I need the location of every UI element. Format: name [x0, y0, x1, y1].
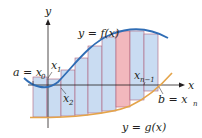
- area-between-curves-diagram: y x y = f(x) y = g(x) a = x 0 x 1 x 2 x …: [0, 0, 202, 138]
- svg-text:2: 2: [68, 99, 74, 107]
- strip-rectangle: [130, 31, 144, 100]
- strip-rectangle: [88, 46, 102, 113]
- x1-label: x 1: [51, 59, 61, 74]
- svg-text:1: 1: [57, 66, 61, 74]
- x1-pointer: [48, 72, 52, 78]
- b-label: b = x n: [158, 93, 198, 108]
- strip-rectangle: [102, 37, 116, 111]
- svg-text:a = x: a = x: [13, 66, 43, 79]
- svg-text:b = x: b = x: [158, 93, 188, 106]
- strip-rectangle: [33, 77, 47, 117]
- svg-text:n: n: [193, 100, 198, 108]
- highlighted-strip: [116, 31, 130, 107]
- g-curve-label: y = g(x): [121, 121, 166, 134]
- x-axis-arrow-icon: [179, 83, 185, 88]
- y-axis-arrow-icon: [46, 19, 51, 25]
- svg-text:n−1: n−1: [140, 76, 155, 84]
- y-axis-label: y: [44, 5, 52, 18]
- x-axis-label: x: [188, 79, 195, 92]
- a-label: a = x 0: [13, 66, 46, 81]
- svg-text:0: 0: [41, 73, 46, 81]
- f-curve-label: y = f(x): [77, 27, 119, 40]
- strip-rectangle: [75, 58, 88, 115]
